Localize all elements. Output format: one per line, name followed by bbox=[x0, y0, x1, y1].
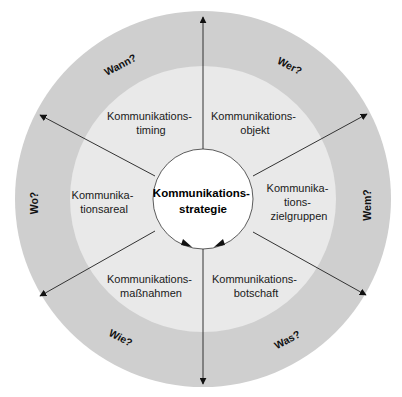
communication-strategy-diagram: Kommunikations- strategie Kommunikations… bbox=[0, 0, 402, 397]
question-label-wem: Wem? bbox=[361, 189, 373, 220]
center-disc bbox=[153, 149, 253, 249]
question-label-wo: Wo? bbox=[28, 192, 40, 215]
